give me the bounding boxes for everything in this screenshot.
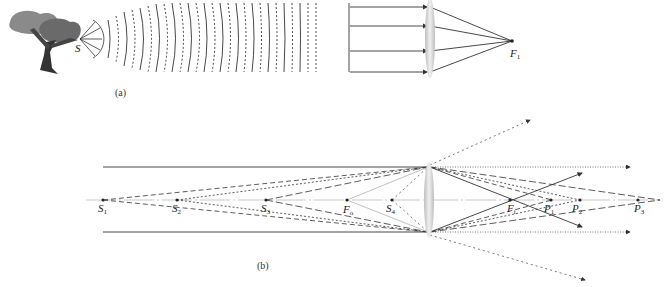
label-s4: S4 — [386, 202, 396, 216]
figure-a: S — [9, 0, 520, 99]
focus-label: F1 — [509, 47, 521, 61]
focal-point-f1 — [510, 39, 514, 43]
figure-b: S1 S2 S3 S4 Fo Fi P1 P2 P3 (b) — [86, 120, 660, 280]
caption-b: (b) — [257, 260, 269, 272]
optics-figure: S — [0, 0, 667, 287]
label-s2: S2 — [172, 202, 182, 216]
label-s3: S3 — [261, 202, 271, 216]
wavefronts — [108, 3, 349, 72]
lens-b — [424, 162, 434, 238]
label-p3: P3 — [633, 202, 645, 216]
tree-icon — [9, 11, 81, 74]
label-s1: S1 — [98, 202, 108, 216]
label-fo: Fo — [342, 203, 354, 217]
label-fi: Fi — [506, 202, 516, 216]
source-label: S — [75, 42, 81, 54]
caption-a: (a) — [115, 87, 126, 99]
lens-a — [425, 0, 435, 78]
label-p2: P2 — [571, 202, 583, 216]
label-p1: P1 — [543, 202, 555, 216]
source-fan — [80, 20, 104, 58]
